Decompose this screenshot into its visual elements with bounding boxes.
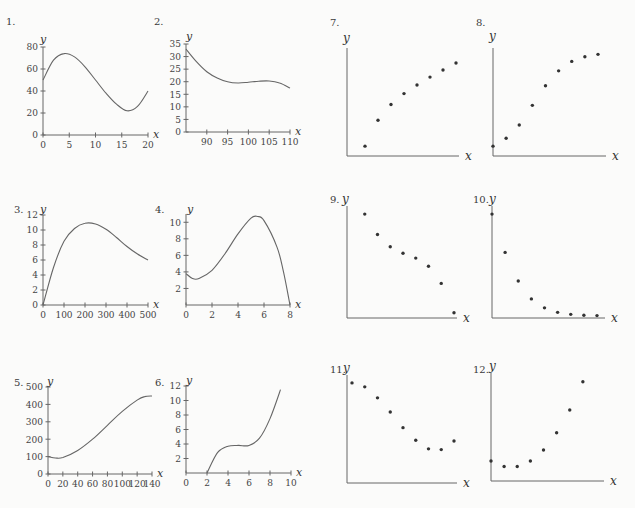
y-tick-label: 5: [175, 115, 181, 125]
data-point: [531, 104, 534, 107]
chart-number-label: 1.: [6, 16, 16, 27]
y-tick-label: 500: [26, 382, 43, 392]
y-tick-label: 10: [27, 225, 39, 235]
data-point: [583, 55, 586, 58]
y-tick-label: 300: [26, 417, 43, 427]
y-axis-label: y: [488, 359, 496, 373]
x-axis-label: x: [465, 149, 472, 163]
chart-grid: 1.02040608005101520xy2.05101520253035909…: [0, 0, 635, 508]
data-point: [555, 431, 558, 434]
data-curve: [186, 49, 290, 88]
y-tick-label: 2: [175, 454, 181, 464]
x-tick-label: 140: [143, 479, 160, 489]
x-tick-label: 95: [222, 137, 234, 147]
data-point: [363, 385, 366, 388]
data-point: [414, 439, 417, 442]
y-tick-label: 0: [37, 469, 43, 479]
x-axis-label: x: [157, 467, 164, 480]
y-tick-label: 25: [170, 64, 182, 74]
x-tick-label: 15: [116, 140, 128, 150]
y-tick-label: 40: [27, 86, 39, 96]
data-point: [517, 279, 520, 282]
data-point: [489, 459, 492, 462]
y-tick-label: 8: [32, 240, 38, 250]
y-axis-label: y: [185, 30, 193, 43]
data-point: [582, 313, 585, 316]
y-axis-label: y: [342, 361, 350, 375]
chart-number-label: 5.: [14, 377, 24, 388]
chart-number-label: 4.: [155, 204, 165, 215]
x-axis-label: x: [463, 476, 470, 490]
x-tick-label: 10: [90, 140, 102, 150]
y-axis-label: y: [488, 29, 496, 43]
x-axis-label: x: [612, 149, 619, 163]
x-axis-label: x: [610, 474, 617, 488]
data-point: [502, 465, 505, 468]
y-tick-label: 4: [32, 270, 38, 280]
y-tick-label: 200: [26, 435, 43, 445]
x-tick-label: 10: [285, 478, 297, 488]
data-point: [530, 297, 533, 300]
data-point: [440, 448, 443, 451]
y-tick-label: 30: [170, 52, 182, 62]
chart-6: 6.246810120246810xy: [155, 374, 303, 488]
x-axis-label: x: [153, 128, 160, 141]
chart-9: 9.xy: [330, 192, 470, 325]
y-tick-label: 4: [175, 267, 181, 277]
y-axis-label: y: [39, 33, 47, 46]
data-point: [490, 212, 493, 215]
x-tick-label: 40: [72, 479, 84, 489]
data-point: [428, 75, 431, 78]
data-point: [596, 53, 599, 56]
chart-12: 12.xy: [473, 359, 617, 488]
data-point: [518, 123, 521, 126]
x-tick-label: 100: [55, 310, 72, 320]
data-point: [568, 408, 571, 411]
y-tick-label: 20: [170, 77, 182, 87]
y-tick-label: 20: [27, 108, 39, 118]
x-tick-label: 0: [40, 140, 46, 150]
y-tick-label: 80: [27, 42, 39, 52]
x-tick-label: 4: [235, 310, 241, 320]
data-point: [401, 426, 404, 429]
y-axis-label: y: [342, 31, 350, 45]
data-curve: [43, 53, 148, 110]
data-point: [454, 61, 457, 64]
data-point: [376, 233, 379, 236]
chart-7: 7.xy: [330, 17, 472, 163]
y-tick-label: 0: [32, 300, 38, 310]
y-tick-label: 4: [175, 439, 181, 449]
y-axis-label: y: [341, 192, 349, 206]
y-tick-label: 6: [32, 255, 38, 265]
data-point: [389, 245, 392, 248]
y-tick-label: 10: [170, 102, 182, 112]
x-tick-label: 20: [142, 140, 154, 150]
chart-5: 5.0100200300400500020406080100120140xy: [14, 375, 164, 489]
data-point: [491, 144, 494, 147]
y-tick-label: 10: [170, 218, 182, 228]
data-point: [581, 380, 584, 383]
x-tick-label: 6: [261, 310, 267, 320]
data-point: [376, 119, 379, 122]
x-tick-label: 90: [201, 137, 213, 147]
data-point: [556, 311, 559, 314]
data-point: [542, 448, 545, 451]
x-axis-label: x: [611, 311, 618, 325]
chart-number-label: 9.: [330, 194, 340, 205]
y-tick-label: 10: [170, 396, 182, 406]
x-tick-label: 20: [57, 479, 69, 489]
x-tick-label: 2: [209, 310, 215, 320]
chart-number-label: 2.: [154, 16, 164, 27]
y-axis-label: y: [46, 375, 54, 388]
x-tick-label: 8: [267, 478, 273, 488]
data-point: [401, 252, 404, 255]
y-tick-label: 6: [175, 425, 181, 435]
data-point: [529, 459, 532, 462]
x-tick-label: 2: [204, 478, 210, 488]
y-tick-label: 400: [26, 400, 43, 410]
data-point: [414, 256, 417, 259]
data-curve: [48, 396, 152, 458]
x-axis-label: x: [153, 298, 160, 311]
data-point: [569, 313, 572, 316]
data-point: [516, 465, 519, 468]
